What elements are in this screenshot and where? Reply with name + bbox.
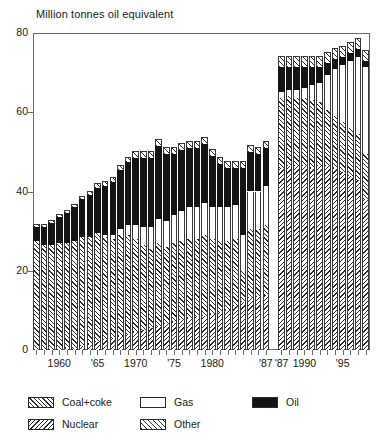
bar-segment-nuclear bbox=[171, 322, 178, 350]
bar-segment-other bbox=[224, 162, 231, 168]
bar-segment-other bbox=[64, 211, 71, 213]
bar-segment-other bbox=[186, 142, 193, 148]
bar-segment-gas bbox=[240, 235, 247, 271]
bar-top-outline bbox=[64, 210, 71, 211]
x-tick-mark bbox=[289, 350, 290, 355]
bar-top-outline bbox=[309, 56, 316, 57]
x-tick-mark bbox=[258, 350, 259, 355]
x-tick-mark bbox=[312, 350, 313, 355]
y-tick-label: 0 bbox=[2, 343, 28, 355]
x-tick-label: '65 bbox=[91, 357, 105, 369]
bar-segment-gas bbox=[186, 207, 193, 239]
bar-segment-nuclear bbox=[209, 314, 216, 350]
bar-segment-coal bbox=[309, 100, 316, 167]
bar-segment-nuclear bbox=[140, 330, 147, 350]
bar-segment-nuclear bbox=[87, 344, 94, 350]
bar-segment-oil bbox=[132, 158, 139, 225]
bar-segment-gas bbox=[324, 75, 331, 111]
bar-segment-gas bbox=[194, 207, 201, 239]
x-tick-label: '95 bbox=[336, 357, 350, 369]
bar-1974 bbox=[163, 148, 170, 350]
y-tick-mark bbox=[27, 112, 33, 113]
bar-segment-oil bbox=[171, 154, 178, 215]
bar-1991 bbox=[309, 57, 316, 350]
legend-item-gas: Gas bbox=[140, 396, 193, 408]
chart-root: Million tonnes oil equivalent 020406080 … bbox=[0, 0, 380, 445]
bar-top-outline bbox=[102, 181, 109, 182]
bar-segment-coal bbox=[316, 102, 323, 165]
bar-segment-coal bbox=[324, 110, 331, 165]
bar-segment-coal bbox=[79, 237, 86, 346]
x-tick-mark bbox=[36, 350, 37, 355]
bar-segment-oil bbox=[355, 49, 362, 57]
bar-segment-nuclear bbox=[201, 316, 208, 350]
bar-segment-other bbox=[217, 158, 224, 164]
bar-segment-coal bbox=[171, 243, 178, 322]
x-tick-mark bbox=[251, 350, 252, 355]
bar-segment-coal bbox=[178, 241, 185, 320]
bar-segment-nuclear bbox=[301, 166, 308, 350]
bar-top-outline bbox=[171, 147, 178, 148]
bar-segment-other bbox=[171, 148, 178, 154]
bar-top-outline bbox=[209, 149, 216, 150]
bar-segment-gas bbox=[309, 85, 316, 101]
bar-segment-other bbox=[324, 53, 331, 63]
bar-segment-gas bbox=[286, 90, 293, 96]
bar-segment-other bbox=[163, 148, 170, 154]
bar-segment-gas bbox=[339, 65, 346, 122]
bar-1972 bbox=[148, 152, 155, 350]
x-tick-mark bbox=[113, 350, 114, 355]
x-tick-mark bbox=[228, 350, 229, 355]
bar-1982 bbox=[224, 162, 231, 350]
bar-segment-coal bbox=[301, 98, 308, 165]
bar-top-outline bbox=[178, 143, 185, 144]
nuclear-swatch-icon bbox=[28, 419, 54, 430]
x-tick-mark bbox=[52, 350, 53, 355]
bar-segment-gas bbox=[247, 192, 254, 230]
bar-top-outline bbox=[347, 42, 354, 43]
bar-segment-coal bbox=[56, 243, 63, 350]
bar-segment-oil bbox=[309, 67, 316, 85]
chart-axis-title: Million tonnes oil equivalent bbox=[36, 8, 173, 20]
bar-top-outline bbox=[194, 141, 201, 142]
bar-segment-nuclear bbox=[217, 312, 224, 350]
bar-segment-oil bbox=[163, 154, 170, 221]
legend-item-nuclear: Nuclear bbox=[28, 418, 98, 430]
bar-1987 bbox=[263, 142, 270, 350]
bar-segment-gas bbox=[316, 83, 323, 103]
bar-segment-other bbox=[347, 43, 354, 53]
bar-top-outline bbox=[56, 214, 63, 215]
bar-segment-oil bbox=[293, 67, 300, 91]
bar-segment-gas bbox=[255, 192, 262, 230]
bar-segment-gas bbox=[117, 229, 124, 235]
legend-item-coal: Coal+coke bbox=[28, 396, 112, 408]
bar-segment-oil bbox=[148, 158, 155, 227]
bar-segment-other bbox=[155, 140, 162, 146]
bar-segment-coal bbox=[224, 241, 231, 310]
bar-segment-other bbox=[110, 178, 117, 182]
bar-segment-oil bbox=[186, 148, 193, 207]
bar-segment-nuclear bbox=[64, 348, 71, 350]
bar-1960 bbox=[56, 215, 63, 350]
bar-segment-coal bbox=[232, 239, 239, 306]
bar-segment-other bbox=[201, 138, 208, 144]
bar-segment-oil bbox=[339, 57, 346, 65]
bar-segment-oil bbox=[125, 162, 132, 225]
x-tick-mark bbox=[75, 350, 76, 355]
bar-segment-oil bbox=[41, 227, 48, 245]
bar-segment-other bbox=[247, 146, 254, 152]
bar-1994 bbox=[332, 49, 339, 350]
bar-segment-gas bbox=[293, 90, 300, 98]
bar-top-outline bbox=[140, 151, 147, 152]
bar-top-outline bbox=[110, 177, 117, 178]
bar-1978 bbox=[194, 142, 201, 350]
bar-segment-other bbox=[255, 148, 262, 154]
y-tick-label: 20 bbox=[2, 264, 28, 276]
bar-segment-coal bbox=[41, 245, 48, 350]
legend-item-oil: Oil bbox=[252, 396, 299, 408]
bar-segment-nuclear bbox=[362, 199, 369, 350]
x-tick-mark bbox=[335, 350, 336, 355]
bar-segment-oil bbox=[209, 156, 216, 208]
bar-top-outline bbox=[41, 224, 48, 225]
bar-segment-gas bbox=[171, 215, 178, 243]
